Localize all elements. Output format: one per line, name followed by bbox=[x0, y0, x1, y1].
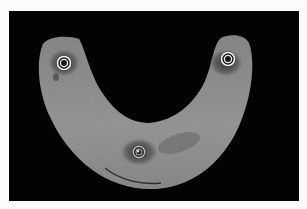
implant-ring-right bbox=[221, 52, 236, 67]
photo-frame bbox=[0, 0, 307, 209]
stain-left-small bbox=[53, 73, 59, 81]
photograph bbox=[9, 11, 299, 201]
implant-bar-illustration bbox=[9, 11, 299, 201]
implant-ring-center bbox=[132, 145, 146, 159]
implant-ring-left bbox=[57, 56, 72, 71]
